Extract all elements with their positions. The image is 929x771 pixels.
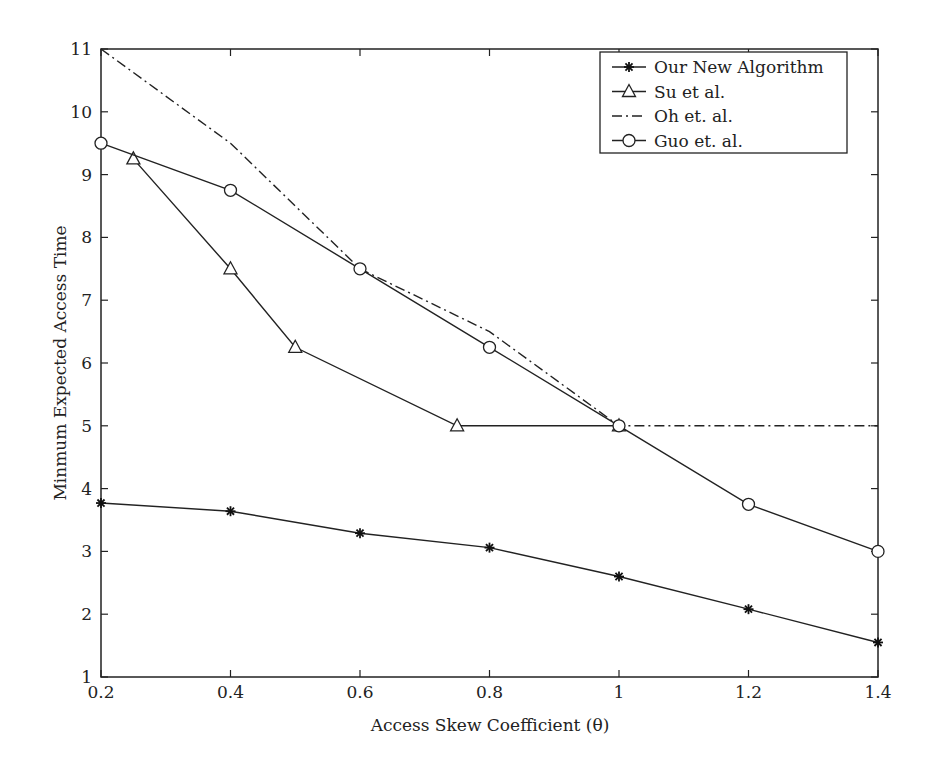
asterisk-marker-icon [744, 604, 754, 614]
y-tick-label: 10 [70, 102, 92, 122]
x-tick-label: 1.4 [864, 682, 891, 702]
circle-marker-icon [872, 545, 884, 557]
asterisk-marker-icon [624, 62, 634, 72]
y-tick-label: 9 [81, 165, 92, 185]
y-tick-label: 2 [81, 604, 92, 624]
circle-marker-icon [623, 135, 635, 147]
y-tick-label: 4 [81, 479, 92, 499]
legend-label: Our New Algorithm [654, 57, 824, 77]
legend-label: Oh et. al. [654, 106, 733, 126]
series-guo-et-al [95, 137, 884, 557]
y-tick-label: 7 [81, 290, 92, 310]
x-tick-label: 1.2 [735, 682, 762, 702]
asterisk-marker-icon [485, 543, 495, 553]
x-axis-label: Access Skew Coefficient (θ) [370, 715, 610, 735]
line-chart: 0.20.40.60.811.21.41234567891011 Our New… [0, 0, 929, 771]
circle-marker-icon [95, 137, 107, 149]
legend-label: Su et al. [654, 82, 725, 102]
circle-marker-icon [613, 420, 625, 432]
series-our-new-algorithm [96, 498, 883, 647]
y-tick-label: 11 [70, 39, 92, 59]
y-tick-label: 1 [81, 667, 92, 687]
asterisk-marker-icon [355, 528, 365, 538]
legend-label: Guo et. al. [654, 131, 743, 151]
asterisk-marker-icon [226, 506, 236, 516]
y-tick-label: 5 [81, 416, 92, 436]
circle-marker-icon [484, 341, 496, 353]
y-axis-label: Minmum Expected Access Time [50, 225, 70, 500]
circle-marker-icon [354, 263, 366, 275]
asterisk-marker-icon [96, 498, 106, 508]
asterisk-marker-icon [614, 572, 624, 582]
x-tick-label: 0.6 [346, 682, 373, 702]
y-tick-label: 8 [81, 227, 92, 247]
circle-marker-icon [743, 498, 755, 510]
x-tick-label: 0.8 [476, 682, 503, 702]
y-tick-label: 6 [81, 353, 92, 373]
chart-legend: Our New AlgorithmSu et al.Oh et. al.Guo … [600, 52, 847, 153]
circle-marker-icon [225, 184, 237, 196]
asterisk-marker-icon [873, 637, 883, 647]
series-su-et-al [127, 152, 626, 431]
y-tick-label: 3 [81, 541, 92, 561]
x-tick-label: 1 [614, 682, 625, 702]
x-tick-label: 0.4 [217, 682, 244, 702]
triangle-marker-icon [451, 419, 464, 431]
